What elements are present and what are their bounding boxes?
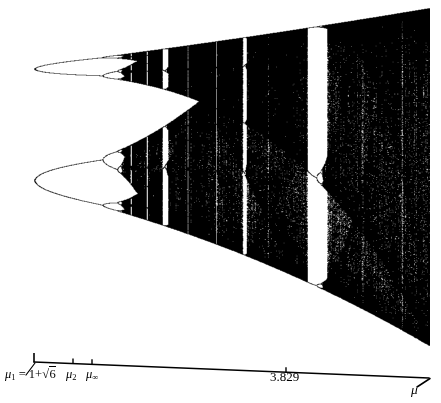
bifurcation-plot-canvas — [0, 0, 441, 403]
tick-label-3829: 3.829 — [270, 370, 299, 383]
tick-label-mu2: μ2 — [66, 368, 77, 382]
tick-label-mu1: μ1 = 1+√6 — [5, 368, 56, 382]
axis-title-mu: μ — [411, 383, 418, 397]
tick-label-mu-infinity: μ∞ — [86, 368, 98, 382]
figure-root: μ1 = 1+√6 μ2 μ∞ 3.829 μ — [0, 0, 441, 403]
